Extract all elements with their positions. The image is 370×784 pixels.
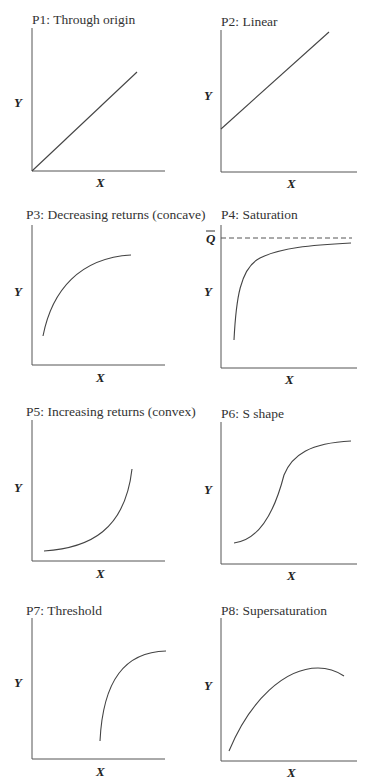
panel-title: P8: Supersaturation — [221, 603, 327, 618]
axes — [32, 420, 165, 561]
x-axis-label: X — [286, 765, 296, 780]
panel-p7: P7: Threshold Y X — [14, 603, 166, 779]
axes — [221, 225, 357, 368]
curve-s-shape — [234, 441, 351, 543]
curve-linear — [221, 32, 329, 129]
axes — [221, 618, 357, 761]
panel-p2: P2: Linear Y X — [204, 14, 357, 191]
panel-title: P5: Increasing returns (convex) — [26, 404, 196, 419]
panel-p6: P6: S shape Y X — [204, 406, 357, 583]
panel-title: P7: Threshold — [26, 603, 102, 618]
curve-supersaturation — [229, 668, 344, 751]
y-axis-label: Y — [14, 675, 23, 690]
x-axis-label: X — [286, 568, 296, 583]
axes — [32, 28, 165, 171]
panel-p1: P1: Through origin Y X — [14, 12, 165, 190]
panel-p3: P3: Decreasing returns (concave) Y X — [14, 207, 206, 385]
x-axis-label: X — [284, 372, 294, 387]
y-axis-label: Y — [204, 678, 213, 693]
axes — [32, 618, 165, 759]
curve-saturation — [234, 243, 351, 340]
x-axis-label: X — [286, 176, 296, 191]
x-axis-label: X — [95, 370, 105, 385]
function-shapes-diagram: P1: Through origin Y X P2: Linear Y X P3… — [0, 0, 370, 784]
panel-title: P2: Linear — [221, 14, 278, 29]
curve-threshold — [100, 651, 166, 741]
x-axis-label: X — [95, 566, 105, 581]
x-axis-label: X — [95, 764, 105, 779]
y-axis-label: Y — [204, 284, 213, 299]
x-axis-label: X — [95, 175, 105, 190]
panel-title: P1: Through origin — [32, 12, 136, 27]
curve-through-origin — [32, 72, 137, 171]
curve-concave — [43, 255, 131, 336]
axes — [221, 30, 357, 172]
panel-p8: P8: Supersaturation Y X — [204, 603, 357, 780]
axes — [221, 422, 357, 564]
curve-convex — [44, 469, 132, 551]
panel-title: P6: S shape — [221, 406, 284, 421]
y-axis-label: Y — [204, 482, 213, 497]
y-axis-label: Y — [14, 95, 23, 110]
panel-title: P4: Saturation — [221, 207, 298, 222]
y-axis-label: Y — [204, 88, 213, 103]
panel-p5: P5: Increasing returns (convex) Y X — [14, 404, 196, 581]
y-axis-label: Y — [14, 284, 23, 299]
panel-p4: P4: Saturation Q Y X — [204, 207, 357, 387]
panel-title: P3: Decreasing returns (concave) — [26, 207, 206, 222]
axes — [32, 225, 165, 365]
asymptote-label: Q — [206, 231, 216, 246]
y-axis-label: Y — [14, 480, 23, 495]
